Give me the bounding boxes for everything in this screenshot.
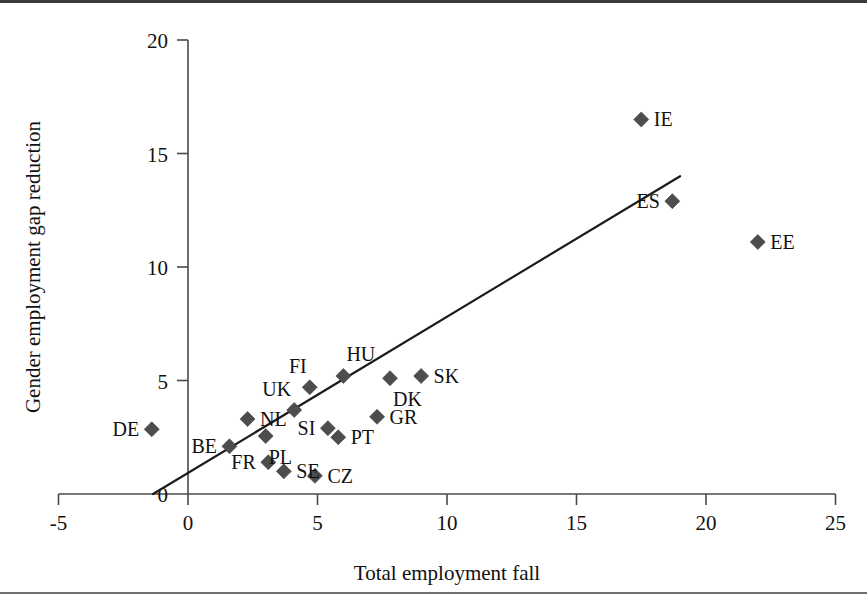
y-tick-label: 15 bbox=[147, 143, 168, 167]
data-point-label: FR bbox=[231, 451, 256, 473]
data-point-marker bbox=[634, 112, 649, 127]
data-point-marker bbox=[665, 194, 680, 209]
x-tick-label: 20 bbox=[696, 511, 717, 535]
data-point-labels: DEBENLPLFRSEUKFICZSIPTHUGRDKSKIEESEE bbox=[113, 108, 795, 486]
y-tick-label: 20 bbox=[147, 29, 168, 53]
data-point-label: PL bbox=[269, 446, 292, 468]
data-point-label: SE bbox=[296, 460, 319, 482]
data-point-marker bbox=[320, 421, 335, 436]
x-tick-label: 5 bbox=[312, 511, 323, 535]
x-tick-label: 15 bbox=[566, 511, 587, 535]
data-point-label: DE bbox=[113, 418, 140, 440]
data-point-label: HU bbox=[346, 343, 375, 365]
x-axis-ticks bbox=[59, 494, 836, 505]
data-point-label: DK bbox=[393, 388, 422, 410]
y-tick-label: 10 bbox=[147, 256, 168, 280]
data-point-markers bbox=[144, 112, 765, 483]
y-axis-ticks bbox=[177, 40, 188, 381]
data-point-label: CZ bbox=[327, 465, 353, 487]
data-point-label: NL bbox=[260, 408, 287, 430]
data-point-marker bbox=[144, 422, 159, 437]
x-tick-label: 0 bbox=[183, 511, 194, 535]
data-point-marker bbox=[414, 368, 429, 383]
data-point-label: ES bbox=[636, 190, 659, 212]
scatter-plot-canvas: -50510152025 05101520 DEBENLPLFRSEUKFICZ… bbox=[0, 0, 867, 594]
data-point-marker bbox=[370, 409, 385, 424]
x-tick-label: 25 bbox=[825, 511, 846, 535]
data-point-marker bbox=[383, 371, 398, 386]
data-point-label: EE bbox=[770, 231, 794, 253]
data-point-marker bbox=[750, 235, 765, 250]
data-point-marker bbox=[240, 412, 255, 427]
data-point-label: UK bbox=[262, 378, 291, 400]
data-point-marker bbox=[331, 430, 346, 445]
data-point-label: SI bbox=[298, 417, 316, 439]
data-point-marker bbox=[302, 380, 317, 395]
data-point-label: SK bbox=[434, 365, 460, 387]
data-point-label: PT bbox=[351, 426, 374, 448]
x-axis-tick-labels: -50510152025 bbox=[50, 511, 846, 535]
data-point-label: BE bbox=[191, 435, 217, 457]
y-axis-title: Gender employment gap reduction bbox=[21, 120, 45, 413]
y-tick-label: 5 bbox=[158, 370, 169, 394]
x-tick-label: 10 bbox=[437, 511, 458, 535]
data-point-label: FI bbox=[289, 355, 307, 377]
x-tick-label: -5 bbox=[50, 511, 68, 535]
scatter-chart-figure: -50510152025 05101520 DEBENLPLFRSEUKFICZ… bbox=[0, 0, 867, 594]
x-axis-title: Total employment fall bbox=[354, 561, 540, 585]
data-point-label: IE bbox=[654, 108, 673, 130]
data-point-marker bbox=[258, 429, 273, 444]
